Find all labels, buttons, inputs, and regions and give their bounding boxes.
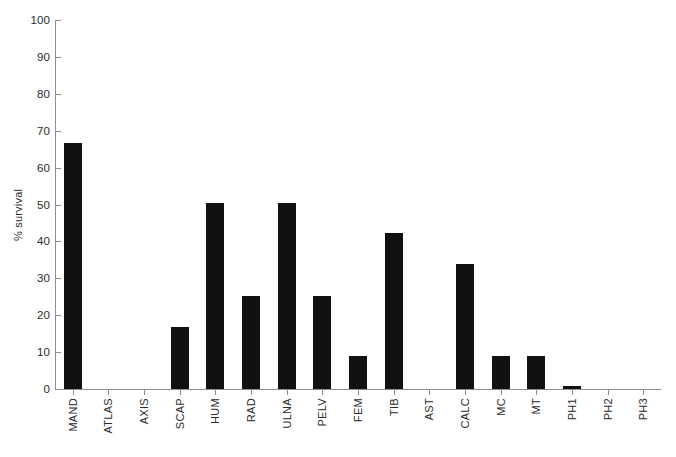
x-axis-tick-label-text: CALC [459,398,471,429]
x-axis-tick-label-text: RAD [245,398,257,422]
y-axis-tick-label: 0 [6,383,50,395]
x-axis-tick [73,390,74,395]
x-axis-tick-label: PELV [315,398,329,454]
x-axis-tick [180,390,181,395]
x-axis-tick-label-text: PH1 [566,398,578,420]
x-axis-tick [572,390,573,395]
bar [64,143,82,389]
y-axis-tick-label: 100 [6,14,50,26]
x-axis-tick-label: AXIS [137,398,151,454]
y-axis-tick-label: 10 [6,346,50,358]
x-axis-tick [536,390,537,395]
x-axis-tick [394,390,395,395]
x-axis-tick-label: PH3 [636,398,650,454]
x-axis-tick-label-text: PELV [316,398,328,427]
x-axis-tick-label: AST [422,398,436,454]
x-axis-tick-label: MC [494,398,508,454]
x-axis-tick [144,390,145,395]
x-axis-tick-label: PH1 [565,398,579,454]
y-axis-tick-label: 70 [6,125,50,137]
bar-chart: % survival 0102030405060708090100 MANDAT… [0,0,676,457]
x-axis-tick-label-text: MAND [67,398,79,432]
x-axis-tick-label: TIB [387,398,401,454]
x-axis-tick-label: HUM [208,398,222,454]
x-axis-tick [251,390,252,395]
x-axis-tick [429,390,430,395]
x-axis-tick-label: SCAP [173,398,187,454]
x-axis-tick-label: MT [529,398,543,454]
x-axis-tick [358,390,359,395]
bar [385,233,403,389]
x-axis-tick-label-text: HUM [209,398,221,424]
y-axis-tick-label: 40 [6,235,50,247]
x-axis-tick-label-text: AST [423,398,435,420]
x-axis-tick-label-text: ULNA [281,398,293,429]
x-axis-tick-label-text: MC [495,398,507,416]
x-axis-tick [608,390,609,395]
bar [563,386,581,389]
bar [527,356,545,389]
x-axis-tick-label-text: AXIS [138,398,150,424]
bar [492,356,510,389]
x-axis-tick-label-text: PH3 [637,398,649,420]
x-axis-tick-label: FEM [351,398,365,454]
x-axis-tick-label: ULNA [280,398,294,454]
x-axis-tick-label-text: ATLAS [102,398,114,434]
y-axis-tick-label: 80 [6,88,50,100]
x-axis-tick-label: MAND [66,398,80,454]
y-axis-tick-label: 60 [6,162,50,174]
x-axis-tick [643,390,644,395]
bar [349,356,367,389]
bar [171,327,189,389]
x-axis-tick [108,390,109,395]
bar [313,296,331,389]
x-axis-tick [465,390,466,395]
x-axis-tick-label: PH2 [601,398,615,454]
bar [278,203,296,389]
plot-area [55,20,661,389]
x-axis-tick-label-text: FEM [352,398,364,422]
x-axis-tick [215,390,216,395]
y-axis-tick-label: 50 [6,199,50,211]
x-axis-tick-label: RAD [244,398,258,454]
x-axis-tick [501,390,502,395]
x-axis-tick-label-text: SCAP [174,398,186,429]
y-axis-tick-label: 20 [6,309,50,321]
x-axis-tick-label-text: MT [530,398,542,414]
x-axis-tick-label-text: TIB [388,398,400,416]
x-axis-tick-label-text: PH2 [602,398,614,420]
bar [242,296,260,389]
x-axis-tick [287,390,288,395]
x-axis-tick-label: CALC [458,398,472,454]
bar [456,264,474,389]
bar [206,203,224,389]
y-axis-tick-label: 90 [6,51,50,63]
x-axis-tick-label: ATLAS [101,398,115,454]
x-axis-tick [322,390,323,395]
y-axis-tick-label: 30 [6,272,50,284]
